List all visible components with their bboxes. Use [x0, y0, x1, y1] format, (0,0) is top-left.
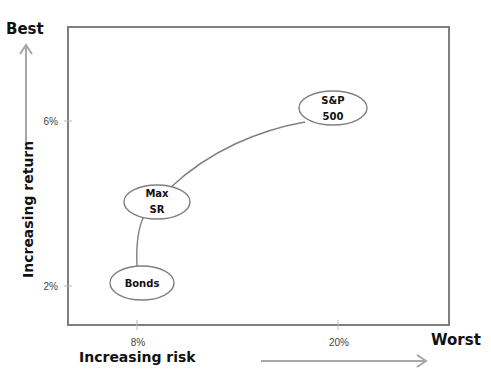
node-max-sr: Max SR: [124, 185, 190, 219]
x-tick-label-20: 20%: [329, 337, 349, 348]
best-label: Best: [6, 20, 44, 38]
node-sp500-line1: S&P: [321, 95, 344, 106]
node-sp500-line2: 500: [323, 111, 344, 122]
node-bonds: Bonds: [110, 266, 174, 300]
frontier-curve-upper: [170, 122, 305, 188]
frontier-curve-lower: [137, 216, 144, 266]
node-bonds-label: Bonds: [125, 278, 160, 289]
y-axis-label: Increasing return: [20, 141, 36, 278]
x-tick-label-8: 8%: [131, 337, 146, 348]
y-tick-label-2: 2%: [44, 281, 59, 292]
x-axis-arrow-icon: [261, 355, 426, 367]
node-max-sr-line2: SR: [150, 204, 165, 215]
y-tick-label-6: 6%: [44, 116, 59, 127]
y-axis-arrow-icon: [20, 45, 32, 143]
worst-label: Worst: [431, 331, 481, 349]
node-sp500: S&P 500: [299, 91, 367, 125]
node-max-sr-line1: Max: [145, 188, 169, 199]
x-axis-label: Increasing risk: [79, 349, 196, 365]
efficient-frontier-diagram: 6% 2% 8% 20% Best Worst Increasing retur…: [0, 0, 491, 382]
